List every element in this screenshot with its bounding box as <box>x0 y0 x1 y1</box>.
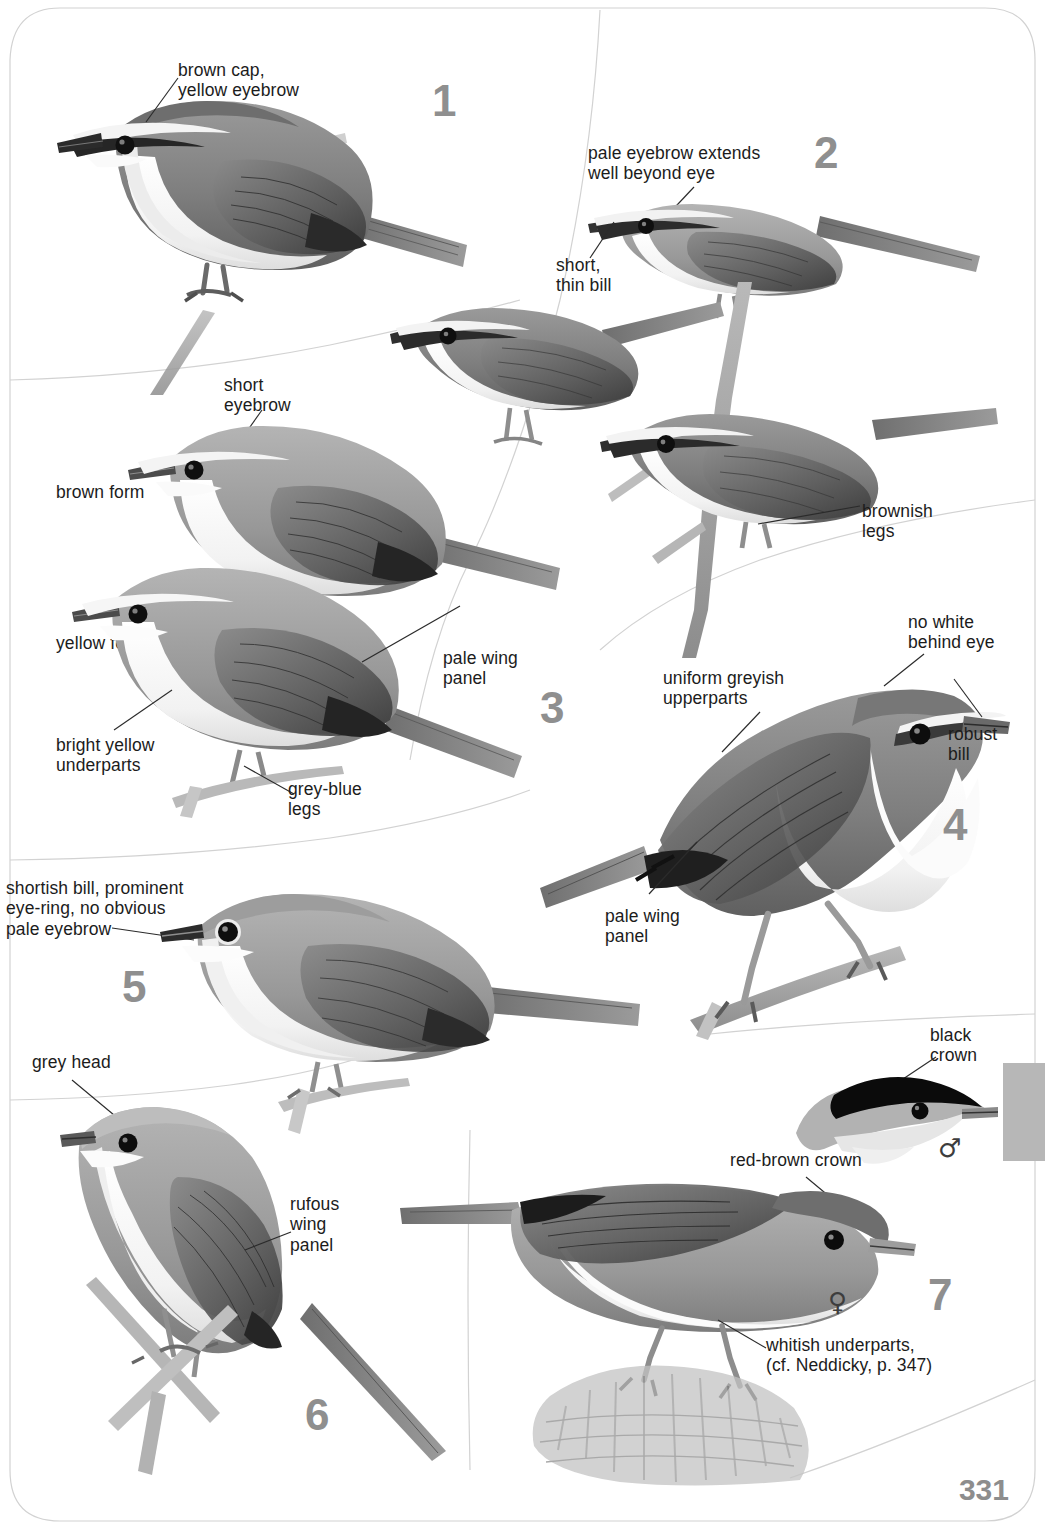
bird-illustration-7-female <box>400 1150 920 1490</box>
label-grey-blue-legs: grey-blue legs <box>288 779 362 820</box>
field-guide-plate: brown cap, yellow eyebrow 1 pale eyebrow… <box>0 0 1045 1529</box>
bird-illustration-2c <box>600 392 1000 562</box>
female-symbol: ♀ <box>828 1287 847 1317</box>
species-number-4: 4 <box>943 800 967 850</box>
species-number-2: 2 <box>814 128 838 178</box>
label-bright-yellow-underparts: bright yellow underparts <box>56 735 155 776</box>
label-brown-cap-yellow-eyebrow: brown cap, yellow eyebrow <box>178 60 299 101</box>
species-number-5: 5 <box>122 962 146 1012</box>
thumb-index-tab <box>1003 1063 1045 1161</box>
label-whitish-underparts: whitish underparts, (cf. Neddicky, p. 34… <box>766 1335 932 1376</box>
leader-line-bright-yellow-underparts <box>110 688 180 738</box>
page-number: 331 <box>959 1473 1009 1507</box>
label-pale-eyebrow-extends: pale eyebrow extends well beyond eye <box>588 143 760 184</box>
species-number-6: 6 <box>305 1390 329 1440</box>
label-robust-bill: robust bill <box>948 724 997 765</box>
species-number-1: 1 <box>432 76 456 126</box>
label-no-white-behind-eye: no white behind eye <box>908 612 995 653</box>
label-brownish-legs: brownish legs <box>862 501 933 542</box>
leader-line-brownish-legs <box>756 500 866 530</box>
leader-line-robust-bill <box>950 675 990 721</box>
label-grey-head: grey head <box>32 1052 111 1072</box>
label-pale-wing-panel-3: pale wing panel <box>443 648 518 689</box>
species-number-7: 7 <box>928 1270 952 1320</box>
male-symbol: ♂ <box>938 1133 961 1163</box>
leader-line-whitish-underparts <box>716 1318 772 1354</box>
label-rufous-wing-panel: rufous wing panel <box>290 1194 339 1255</box>
